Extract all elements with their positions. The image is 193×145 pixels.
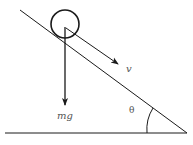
incline-line [20, 10, 187, 133]
inclined-plane-diagram: v mg θ [0, 0, 193, 145]
angle-label: θ [129, 105, 134, 115]
weight-label: mg [57, 110, 73, 121]
angle-arc [147, 108, 153, 133]
velocity-arrow [66, 28, 118, 64]
velocity-label: v [126, 63, 132, 74]
